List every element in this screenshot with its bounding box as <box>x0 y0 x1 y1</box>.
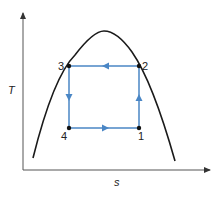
arrow-down-icon <box>66 94 73 101</box>
point-label-4: 4 <box>61 131 67 142</box>
x-axis-label: s <box>114 177 120 188</box>
state-point-2 <box>137 64 141 68</box>
point-label-1: 1 <box>138 131 144 142</box>
ts-diagram <box>0 0 219 200</box>
point-label-2: 2 <box>142 61 148 72</box>
saturation-dome-curve <box>33 31 175 161</box>
point-label-3: 3 <box>58 61 64 72</box>
carnot-cycle <box>69 66 139 128</box>
arrow-right-icon <box>102 125 109 132</box>
state-point-4 <box>67 126 71 130</box>
arrow-up-icon <box>136 94 143 101</box>
arrow-left-icon <box>102 63 109 70</box>
y-axis-label: T <box>8 85 15 96</box>
state-point-3 <box>67 64 71 68</box>
